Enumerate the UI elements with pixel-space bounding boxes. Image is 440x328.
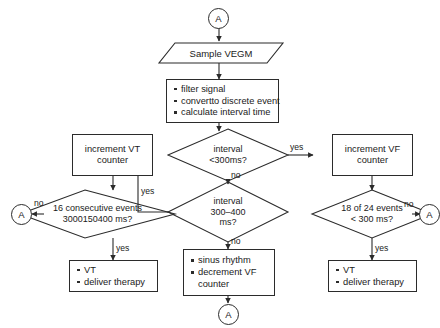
decision-interval-300-text: interval <300ms?	[207, 144, 248, 166]
edge-label-no-below-300-400: no	[231, 236, 241, 246]
decision-18-of-24-line1: 18 of 24 events	[341, 203, 403, 214]
vt-therapy-left-node: VT deliver therapy	[69, 260, 158, 292]
edge-label-no-left: no	[34, 198, 44, 208]
connector-right: A	[419, 204, 440, 225]
increment-vf-counter-line1: increment VF	[345, 144, 400, 155]
connector-left: A	[11, 204, 32, 225]
sample-vegm-node: Sample VEGM	[159, 43, 283, 64]
increment-vt-counter-line2: counter	[85, 155, 140, 166]
connector-top: A	[208, 8, 229, 29]
sinus-rhythm-item: sinus rhythm	[198, 255, 256, 266]
signal-processing-item: calculate interval time	[181, 107, 280, 118]
increment-vt-counter-line1: increment VT	[85, 144, 140, 155]
connector-bottom: A	[218, 304, 239, 325]
decision-16-consecutive-text: 16 consecutive events 3000150400 ms?	[51, 203, 144, 225]
vt-therapy-right-list: VT deliver therapy	[335, 265, 404, 288]
signal-processing-item: filter signal	[181, 84, 280, 95]
vt-therapy-left-item: VT	[84, 265, 145, 276]
sinus-rhythm-node: sinus rhythm decrement VF counter	[183, 249, 275, 296]
vt-therapy-right-item: deliver therapy	[343, 277, 404, 288]
decision-16-consecutive-line2: 3000150400 ms?	[53, 214, 142, 225]
decision-18-of-24-node: 18 of 24 events < 300 ms?	[312, 190, 432, 238]
sinus-rhythm-list: sinus rhythm decrement VF counter	[190, 255, 256, 290]
signal-processing-node: filter signal convertto discrete event c…	[166, 79, 279, 123]
vt-therapy-left-item: deliver therapy	[84, 277, 145, 288]
edge-label-no-right: no	[404, 199, 414, 209]
decision-16-consecutive-line1: 16 consecutive events	[53, 203, 142, 214]
decision-interval-300-node: interval <300ms?	[168, 129, 288, 181]
sinus-rhythm-item: decrement VF	[198, 267, 256, 278]
connector-bottom-label: A	[225, 309, 232, 320]
decision-18-of-24-text: 18 of 24 events < 300 ms?	[339, 203, 405, 225]
connector-right-label: A	[426, 209, 433, 220]
vt-therapy-left-list: VT deliver therapy	[76, 265, 145, 288]
sinus-rhythm-item: counter	[198, 279, 256, 290]
edge-label-yes-left: yes	[116, 243, 129, 253]
vt-therapy-right-item: VT	[343, 265, 404, 276]
edge-label-yes-right: yes	[375, 243, 388, 253]
increment-vf-counter-text: increment VF counter	[345, 144, 400, 166]
signal-processing-list: filter signal convertto discrete event c…	[173, 84, 280, 119]
edge-label-yes-to-vf: yes	[290, 142, 303, 152]
decision-interval-300-400-text: interval 300–400 ms?	[208, 196, 247, 228]
decision-18-of-24-line2: < 300 ms?	[341, 214, 403, 225]
flowchart-canvas: A Sample VEGM filter signal convertto di…	[0, 0, 440, 328]
decision-interval-300-400-line2: 300–400	[210, 207, 245, 218]
decision-interval-300-400-line3: ms?	[210, 217, 245, 228]
decision-interval-300-line2: <300ms?	[209, 155, 246, 166]
decision-interval-300-400-line1: interval	[210, 196, 245, 207]
increment-vt-counter-node: increment VT counter	[72, 134, 153, 176]
connector-left-label: A	[18, 209, 25, 220]
vt-therapy-right-node: VT deliver therapy	[328, 260, 417, 292]
edge-label-no-below-300: no	[231, 170, 241, 180]
increment-vt-counter-text: increment VT counter	[85, 144, 140, 166]
signal-processing-item: convertto discrete event	[181, 96, 280, 107]
decision-interval-300-line1: interval	[209, 144, 246, 155]
connector-top-label: A	[215, 13, 222, 24]
increment-vf-counter-node: increment VF counter	[332, 134, 413, 176]
edge-label-yes-to-vt: yes	[141, 186, 154, 196]
decision-interval-300-400-node: interval 300–400 ms?	[168, 182, 288, 242]
sample-vegm-label: Sample VEGM	[190, 48, 253, 59]
increment-vf-counter-line2: counter	[345, 155, 400, 166]
